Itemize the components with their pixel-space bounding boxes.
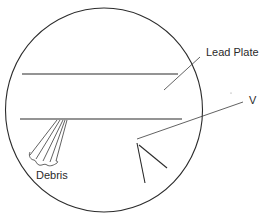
speck [230, 92, 231, 93]
lead-plate-label: Lead Plate [206, 46, 259, 58]
field-of-view-circle [6, 8, 203, 212]
v-shaped-crack [137, 143, 167, 183]
debris-label: Debris [36, 169, 68, 181]
v-label: V [249, 94, 257, 106]
diagram-canvas: Lead Plate V Debris [0, 0, 266, 218]
debris-streaks [29, 120, 67, 166]
v-leader-line [137, 102, 243, 139]
